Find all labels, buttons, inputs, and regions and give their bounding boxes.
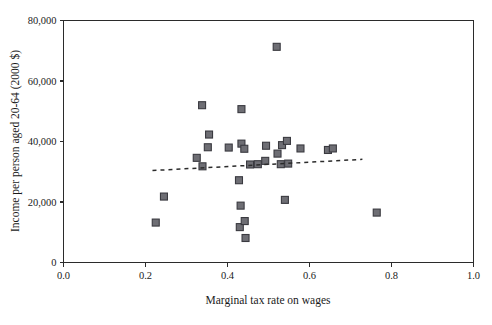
scatter-point <box>206 131 213 138</box>
scatter-point <box>225 144 232 151</box>
x-tick-label: 0.0 <box>57 270 70 281</box>
scatter-point <box>237 202 244 209</box>
x-tick-label: 0.2 <box>139 270 152 281</box>
scatter-point <box>274 150 281 157</box>
scatter-point <box>241 218 248 225</box>
scatter-point <box>263 142 270 149</box>
scatter-point <box>152 219 159 226</box>
x-tick-label: 1.0 <box>467 270 480 281</box>
scatter-point <box>193 154 200 161</box>
scatter-point <box>297 145 304 152</box>
x-axis-ticks: 0.00.20.40.60.81.0 <box>57 263 480 281</box>
y-tick-label: 0 <box>51 257 56 268</box>
data-points <box>152 43 380 241</box>
scatter-point <box>241 145 248 152</box>
scatter-point <box>160 193 167 200</box>
y-axis-ticks: 020,00040,00060,00080,000 <box>28 15 64 268</box>
x-tick-label: 0.6 <box>303 270 316 281</box>
scatter-point <box>373 209 380 216</box>
scatter-point <box>238 106 245 113</box>
scatter-point <box>329 145 336 152</box>
x-tick-label: 0.4 <box>221 270 235 281</box>
y-tick-label: 80,000 <box>28 15 57 26</box>
y-tick-label: 20,000 <box>28 197 57 208</box>
plot-frame <box>64 21 474 263</box>
scatter-point <box>204 144 211 151</box>
scatter-point <box>283 137 290 144</box>
scatter-point <box>199 102 206 109</box>
scatter-point <box>199 163 206 170</box>
scatter-point <box>273 43 280 50</box>
scatter-point <box>262 157 269 164</box>
y-tick-label: 60,000 <box>28 76 57 87</box>
scatter-point <box>235 177 242 184</box>
plot-canvas: 020,00040,00060,00080,000 0.00.20.40.60.… <box>0 0 492 325</box>
scatter-point <box>242 235 249 242</box>
x-axis-title: Marginal tax rate on wages <box>206 294 331 307</box>
scatter-point <box>247 161 254 168</box>
scatter-plot-figure: 020,00040,00060,00080,000 0.00.20.40.60.… <box>0 0 492 325</box>
y-axis-title: Income per person aged 20-64 (2000 $) <box>9 50 22 232</box>
y-tick-label: 40,000 <box>28 136 57 147</box>
scatter-point <box>281 196 288 203</box>
x-tick-label: 0.8 <box>385 270 398 281</box>
